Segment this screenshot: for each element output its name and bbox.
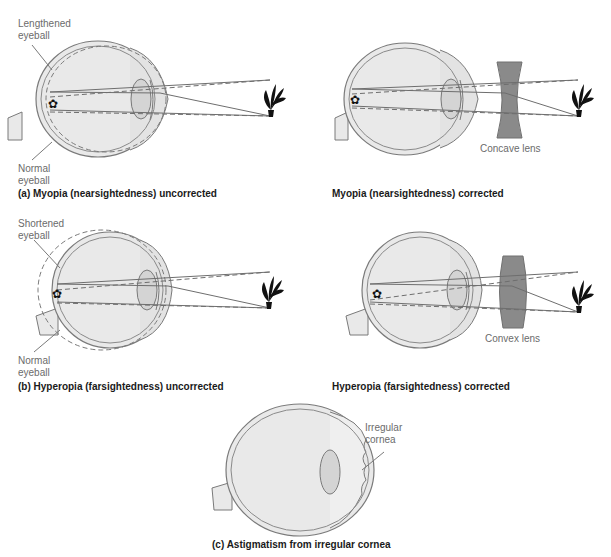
optic-nerve — [346, 308, 368, 335]
lens — [320, 450, 340, 494]
hyperopia-uncorrected-caption: (b) Hyperopia (farsightedness) uncorrect… — [18, 381, 224, 392]
normal-eyeball-label: Normal eyeball — [18, 163, 50, 187]
plant-object-icon — [264, 84, 286, 117]
plant-object-icon — [572, 84, 594, 117]
optic-nerve — [8, 112, 22, 140]
ray — [160, 93, 270, 116]
hyperopia-corrected-diagram: ✿ — [346, 232, 594, 348]
astigmatism-caption: (c) Astigmatism from irregular cornea — [212, 539, 391, 550]
astigmatism-diagram — [212, 404, 384, 536]
hyperopia-corrected-caption: Hyperopia (farsightedness) corrected — [332, 381, 510, 392]
myopia-uncorrected-caption: (a) Myopia (nearsightedness) uncorrected — [18, 188, 217, 199]
lengthened-eyeball-label: Lengthened eyeball — [18, 18, 71, 42]
convex-lens-label: Convex lens — [485, 333, 540, 345]
plant-object-icon — [572, 280, 594, 313]
leader-line — [32, 142, 52, 160]
normal-eyeball-label: Normal eyeball — [18, 355, 50, 379]
plant-object-icon — [262, 276, 284, 309]
concave-lens-label: Concave lens — [480, 143, 541, 155]
myopia-corrected-diagram: ✿ — [335, 43, 594, 155]
leader-line — [32, 45, 52, 70]
shortened-eyeball-label: Shortened eyeball — [18, 218, 64, 242]
inverted-image-icon: ✿ — [372, 287, 382, 301]
irregular-cornea-label: Irregular cornea — [365, 422, 402, 446]
myopia-corrected-caption: Myopia (nearsightedness) corrected — [332, 188, 504, 199]
hyperopia-uncorrected-diagram: ✿ — [34, 230, 284, 352]
convex-lens — [500, 256, 527, 328]
myopia-uncorrected-diagram: ✿ — [8, 41, 286, 160]
ray — [168, 286, 270, 308]
inverted-image-icon: ✿ — [48, 97, 58, 111]
leader-line — [34, 240, 60, 268]
optic-nerve — [335, 112, 348, 140]
lens — [447, 270, 467, 310]
inverted-image-icon: ✿ — [52, 287, 62, 301]
diagram-canvas: ✿ ✿ ✿ — [0, 0, 611, 557]
inverted-image-icon: ✿ — [350, 93, 360, 107]
concave-lens — [497, 62, 522, 138]
